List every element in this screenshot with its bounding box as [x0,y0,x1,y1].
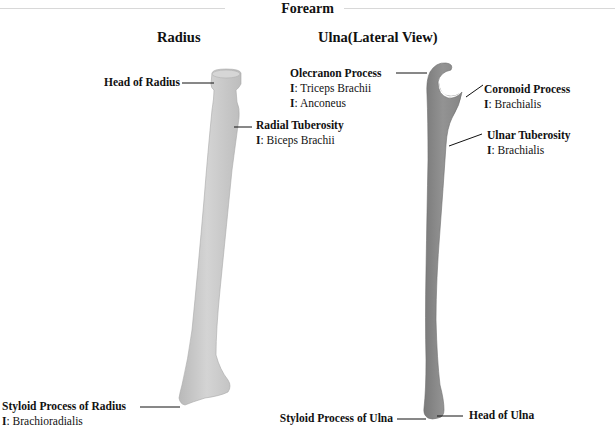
label-insertion: I: Brachioradialis [2,414,126,429]
label-styloid-process-of-ulna: Styloid Process of Ulna [280,411,393,426]
label-name: Coronoid Process [484,82,570,97]
label-ulnar-tuberosity: Ulnar Tuberosity I: Brachialis [487,128,571,158]
label-name: Olecranon Process [290,66,381,81]
label-insertion: I: Anconeus [290,96,381,111]
label-name: Ulnar Tuberosity [487,128,571,143]
label-name: Head of Ulna [469,408,534,423]
radius-bone [179,69,241,405]
label-name: Head of Radius [104,75,180,90]
label-styloid-process-of-radius: Styloid Process of Radius I: Brachioradi… [2,399,126,429]
label-name: Styloid Process of Radius [2,399,126,414]
label-head-of-ulna: Head of Ulna [469,408,534,423]
label-radial-tuberosity: Radial Tuberosity I: Biceps Brachii [256,118,344,148]
label-name: Radial Tuberosity [256,118,344,133]
label-head-of-radius: Head of Radius [104,75,180,90]
ulna-bone [424,63,462,419]
label-coronoid-process: Coronoid Process I: Brachialis [484,82,570,112]
label-olecranon-process: Olecranon Process I: Triceps Brachii I: … [290,66,381,111]
label-insertion: I: Brachialis [484,97,570,112]
label-insertion: I: Biceps Brachii [256,133,344,148]
label-insertion: I: Brachialis [487,143,571,158]
label-insertion: I: Triceps Brachii [290,81,381,96]
label-name: Styloid Process of Ulna [280,411,393,426]
